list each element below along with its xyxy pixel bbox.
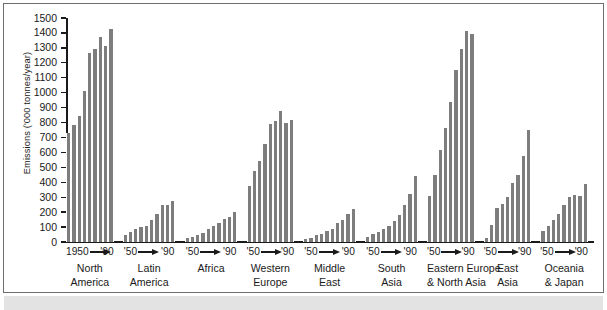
bar-group [185, 18, 238, 242]
y-tick-label: 1500 [0, 12, 57, 25]
right-arrow-icon [381, 248, 403, 256]
x-group-label: '50'90MiddleEast [303, 245, 356, 289]
x-range-start: '50 [427, 245, 440, 259]
bar-group [365, 18, 418, 242]
x-range-end: '90 [575, 245, 588, 259]
x-range-label: '50'90 [185, 245, 238, 259]
x-group-label: '50'90Eastern Europe& North Asia [427, 245, 475, 289]
y-tick-label: 300 [0, 191, 57, 204]
region-name-line: Africa [185, 262, 238, 276]
region-name-line: Latin [123, 262, 176, 276]
bar [413, 176, 418, 242]
right-arrow-icon [555, 248, 574, 256]
right-arrow-icon [200, 248, 222, 256]
y-tick-label: 900 [0, 101, 57, 114]
bar-group-bars [365, 18, 418, 242]
x-range-end: '90 [404, 245, 417, 259]
region-name-line: Asia [365, 276, 418, 290]
x-range-end: '90 [518, 245, 531, 259]
y-tick-label: 200 [0, 206, 57, 219]
emissions-bar-chart-figure: Emissions ('000 tonnes/year) 01002003004… [0, 0, 607, 310]
y-tick-label: 1000 [0, 86, 57, 99]
x-range-start: '50 [484, 245, 497, 259]
x-range-start: '50 [124, 245, 137, 259]
x-range-end: '90 [461, 245, 474, 259]
x-range-label: '50'90 [484, 245, 532, 259]
y-tick-label: 1300 [0, 41, 57, 54]
right-arrow-icon [261, 248, 280, 256]
bar-group-bars [123, 18, 176, 242]
x-range-label: '50'90 [123, 245, 176, 259]
x-range-start: '50 [366, 245, 379, 259]
y-tick-label: 100 [0, 221, 57, 234]
x-group-label: 1950'90NorthAmerica [66, 245, 114, 289]
bar [170, 201, 175, 242]
x-range-label: '50'90 [247, 245, 295, 259]
region-name-line: Oceania [540, 262, 588, 276]
right-arrow-icon [441, 248, 460, 256]
bar-group-bars [484, 18, 532, 242]
bar-group [66, 18, 114, 242]
x-range-start: '50 [186, 245, 199, 259]
x-group-label: '50'90Oceania& Japan [540, 245, 588, 289]
region-name-line: America [66, 276, 114, 290]
y-tick-label: 1200 [0, 56, 57, 69]
bar-group-bars [303, 18, 356, 242]
bar-group-bars [185, 18, 238, 242]
region-name-line: East [484, 262, 532, 276]
x-range-start: '50 [304, 245, 317, 259]
bar [526, 130, 531, 242]
bar-group [540, 18, 588, 242]
x-range-label: 1950'90 [66, 245, 114, 259]
bar [469, 34, 474, 242]
bar-group-bars [540, 18, 588, 242]
region-name-line: & North Asia [427, 276, 475, 290]
x-group-label: '50'90LatinAmerica [123, 245, 176, 289]
bar-group [427, 18, 475, 242]
x-group-label: '50'90Africa [185, 245, 238, 289]
x-range-label: '50'90 [427, 245, 475, 259]
bar-group-bars [247, 18, 295, 242]
y-tick-label: 500 [0, 161, 57, 174]
bar-group [123, 18, 176, 242]
right-arrow-icon [90, 248, 100, 256]
x-group-label: '50'90WesternEurope [247, 245, 295, 289]
bar [289, 120, 294, 242]
region-name-line: Western [247, 262, 295, 276]
x-range-end: '90 [342, 245, 355, 259]
x-axis-group-labels: 1950'90NorthAmerica'50'90LatinAmerica'50… [66, 245, 594, 289]
x-range-label: '50'90 [365, 245, 418, 259]
y-tick-label: 0 [0, 236, 57, 249]
right-arrow-icon [319, 248, 341, 256]
x-range-end: '90 [281, 245, 294, 259]
bar-group-bars [427, 18, 475, 242]
bar-group [247, 18, 295, 242]
x-group-label: '50'90EastAsia [484, 245, 532, 289]
bar [232, 212, 237, 242]
bar [583, 184, 588, 242]
right-arrow-icon [498, 248, 517, 256]
y-tick-label: 600 [0, 146, 57, 159]
y-tick-label: 1400 [0, 26, 57, 39]
region-name-line: Middle [303, 262, 356, 276]
x-range-start: '50 [247, 245, 260, 259]
x-range-end: '90 [223, 245, 236, 259]
x-range-start: 1950 [66, 245, 89, 259]
x-group-label: '50'90SouthAsia [365, 245, 418, 289]
y-tick-label: 1100 [0, 71, 57, 84]
region-name-line: South [365, 262, 418, 276]
bar-group-bars [66, 18, 114, 242]
right-arrow-icon [138, 248, 160, 256]
x-range-label: '50'90 [303, 245, 356, 259]
y-tick-label: 700 [0, 131, 57, 144]
region-name-line: Eastern Europe [427, 262, 475, 276]
y-tick-label: 800 [0, 116, 57, 129]
bottom-banner-strip [4, 296, 603, 310]
bar [351, 209, 356, 242]
y-tick-label: 400 [0, 176, 57, 189]
x-range-start: '50 [540, 245, 553, 259]
region-name-line: Europe [247, 276, 295, 290]
x-range-end: '90 [161, 245, 174, 259]
region-name-line: & Japan [540, 276, 588, 290]
region-name-line: North [66, 262, 114, 276]
